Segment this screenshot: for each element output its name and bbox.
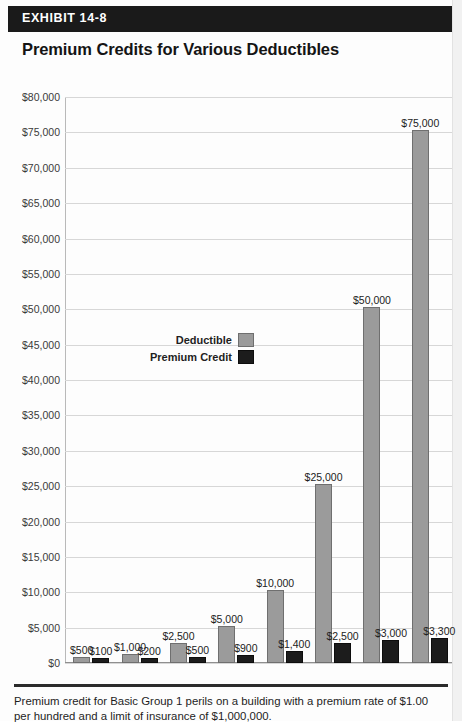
bar-value-label: $2,500 xyxy=(162,630,194,642)
bar-value-label: $75,000 xyxy=(401,117,439,129)
legend-item-premium-credit: Premium Credit xyxy=(150,348,254,365)
bar-premium-credit: $1,400 xyxy=(286,651,303,663)
bar-premium-credit: $900 xyxy=(237,655,254,663)
bar-premium-credit: $500 xyxy=(189,657,206,663)
page-title: Premium Credits for Various Deductibles xyxy=(22,40,339,59)
bar-value-label: $50,000 xyxy=(353,294,391,306)
y-axis-tick-label: $50,000 xyxy=(0,303,60,315)
footnote-text: Premium credit for Basic Group 1 perils … xyxy=(14,694,444,725)
bar-value-label: $2,500 xyxy=(327,630,359,642)
legend-swatch-deductible xyxy=(238,333,254,347)
legend-label-deductible: Deductible xyxy=(176,334,232,346)
bar-value-label: $10,000 xyxy=(256,577,294,589)
bar-value-label: $3,300 xyxy=(423,625,455,637)
bar-group: $10,000$1,400 xyxy=(267,590,303,663)
legend-item-deductible: Deductible xyxy=(150,331,254,348)
bar-deductible: $5,000 xyxy=(218,626,235,663)
footnote-divider xyxy=(14,684,448,687)
bar-group: $2,500$500 xyxy=(170,643,206,663)
bar-deductible: $2,500 xyxy=(170,643,187,663)
bar-value-label: $500 xyxy=(186,644,209,656)
y-axis-tick-label: $55,000 xyxy=(0,268,60,280)
bar-premium-credit: $100 xyxy=(92,658,109,663)
legend-swatch-premium-credit xyxy=(238,350,254,364)
y-axis-tick-label: $20,000 xyxy=(0,516,60,528)
grid-line xyxy=(65,274,452,275)
bar-value-label: $3,000 xyxy=(375,627,407,639)
bar-deductible: $50,000 xyxy=(363,307,380,663)
bar-premium-credit: $3,300 xyxy=(431,638,448,663)
y-axis-tick-label: $45,000 xyxy=(0,339,60,351)
bar-group: $5,000$900 xyxy=(218,626,254,663)
bar-premium-credit: $2,500 xyxy=(334,643,351,663)
y-axis-tick-label: $25,000 xyxy=(0,480,60,492)
y-axis-tick-label: $80,000 xyxy=(0,91,60,103)
chart-legend: Deductible Premium Credit xyxy=(150,331,254,365)
y-axis-tick-label: $5,000 xyxy=(0,622,60,634)
bar-group: $1,000$200 xyxy=(122,654,158,663)
bar-deductible: $75,000 xyxy=(412,130,429,663)
grid-line xyxy=(65,203,452,204)
bar-value-label: $1,400 xyxy=(278,638,310,650)
y-axis-tick-label: $10,000 xyxy=(0,586,60,598)
grid-line xyxy=(65,168,452,169)
y-axis-tick-label: $30,000 xyxy=(0,445,60,457)
chart-plot-area: $500$100$1,000$200$2,500$500$5,000$900$1… xyxy=(65,97,452,663)
y-axis-tick-label: $65,000 xyxy=(0,197,60,209)
bar-group: $25,000$2,500 xyxy=(315,484,351,663)
bar-group: $75,000$3,300 xyxy=(412,130,448,663)
bar-group: $500$100 xyxy=(73,657,109,663)
bar-value-label: $200 xyxy=(137,645,160,657)
bar-value-label: $100 xyxy=(89,645,112,657)
bar-group: $50,000$3,000 xyxy=(363,307,399,663)
y-axis-tick-label: $40,000 xyxy=(0,374,60,386)
bar-deductible: $1,000 xyxy=(122,654,139,663)
y-axis-tick-label: $60,000 xyxy=(0,233,60,245)
bar-value-label: $900 xyxy=(234,642,257,654)
y-axis-tick-label: $35,000 xyxy=(0,409,60,421)
y-axis-tick-label: $0 xyxy=(0,657,60,669)
y-axis-tick-label: $75,000 xyxy=(0,126,60,138)
y-axis-tick-labels: $80,000$75,000$70,000$65,000$60,000$55,0… xyxy=(0,97,60,663)
legend-label-premium-credit: Premium Credit xyxy=(150,351,232,363)
bar-value-label: $5,000 xyxy=(211,613,243,625)
bar-premium-credit: $3,000 xyxy=(382,640,399,663)
y-axis-tick-label: $70,000 xyxy=(0,162,60,174)
grid-line xyxy=(65,663,452,664)
bar-deductible: $500 xyxy=(73,657,90,663)
page-edge-shadow xyxy=(452,0,462,721)
grid-line xyxy=(65,239,452,240)
exhibit-number-label: EXHIBIT 14-8 xyxy=(22,11,107,25)
bar-value-label: $25,000 xyxy=(305,471,343,483)
footnote-line-2: hundred and a limit of insurance of $1,0… xyxy=(34,710,272,722)
bar-deductible: $10,000 xyxy=(267,590,284,663)
bar-premium-credit: $200 xyxy=(141,658,158,663)
y-axis-tick-label: $15,000 xyxy=(0,551,60,563)
grid-line xyxy=(65,132,452,133)
grid-line xyxy=(65,97,452,98)
